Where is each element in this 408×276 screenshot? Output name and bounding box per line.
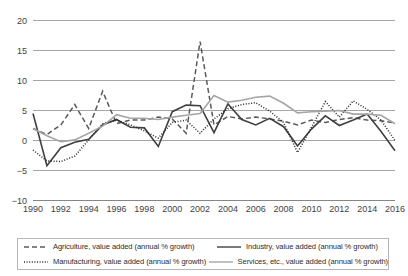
- y-tick-label: 15: [17, 46, 27, 56]
- y-tick-label: 10: [17, 76, 27, 86]
- legend-swatch-solid-icon: [216, 242, 242, 252]
- legend-swatch-solid-light-icon: [208, 257, 234, 267]
- x-axis-tick-labels: 1990199219941996199820002002200420062008…: [23, 204, 405, 214]
- x-tick-label: 2004: [218, 204, 238, 214]
- x-tick-label: 2016: [385, 204, 405, 214]
- x-tick-label: 1990: [23, 204, 43, 214]
- series-line: [33, 42, 395, 135]
- legend-entry-manufacturing: Manufacturing, value added (annual % gro…: [23, 254, 208, 269]
- x-tick-label: 2002: [190, 204, 210, 214]
- x-tick-label: 1992: [51, 204, 71, 214]
- x-tick-label: 2014: [357, 204, 377, 214]
- x-tick-label: 2010: [301, 204, 321, 214]
- y-axis-tick-labels: 20151050−5−10: [12, 16, 27, 206]
- legend-entry-industry: Industry, value added (annual % growth): [216, 239, 378, 254]
- x-tick-label: 2000: [162, 204, 182, 214]
- legend-row-2: Manufacturing, value added (annual % gro…: [18, 254, 388, 269]
- legend-entry-services: Services, etc., value added (annual % gr…: [208, 254, 388, 269]
- x-tick-label: 2012: [329, 204, 349, 214]
- legend-label-services: Services, etc., value added (annual % gr…: [238, 257, 388, 266]
- legend-swatch-dashed-icon: [23, 242, 49, 252]
- y-tick-label: −5: [17, 166, 27, 176]
- y-tick-label: 20: [17, 16, 27, 26]
- y-tick-label: 5: [22, 106, 27, 116]
- legend-row-1: Agriculture, value added (annual % growt…: [18, 239, 388, 254]
- legend-label-agriculture: Agriculture, value added (annual % growt…: [53, 242, 194, 251]
- series-lines: [33, 42, 395, 166]
- y-tick-label: 0: [22, 136, 27, 146]
- x-tick-label: 1994: [79, 204, 99, 214]
- legend-label-industry: Industry, value added (annual % growth): [246, 242, 378, 251]
- legend-label-manufacturing: Manufacturing, value added (annual % gro…: [53, 257, 206, 266]
- x-tick-label: 1996: [107, 204, 127, 214]
- legend-entry-agriculture: Agriculture, value added (annual % growt…: [23, 239, 216, 254]
- legend-swatch-dotted-icon: [23, 257, 49, 267]
- x-tick-label: 2008: [274, 204, 294, 214]
- chart-plot-area: 20151050−5−10 19901992199419961998200020…: [0, 0, 408, 232]
- line-chart: 20151050−5−10 19901992199419961998200020…: [0, 0, 408, 276]
- chart-legend: Agriculture, value added (annual % growt…: [17, 238, 389, 270]
- x-tick-label: 1998: [134, 204, 154, 214]
- x-tick-label: 2006: [246, 204, 266, 214]
